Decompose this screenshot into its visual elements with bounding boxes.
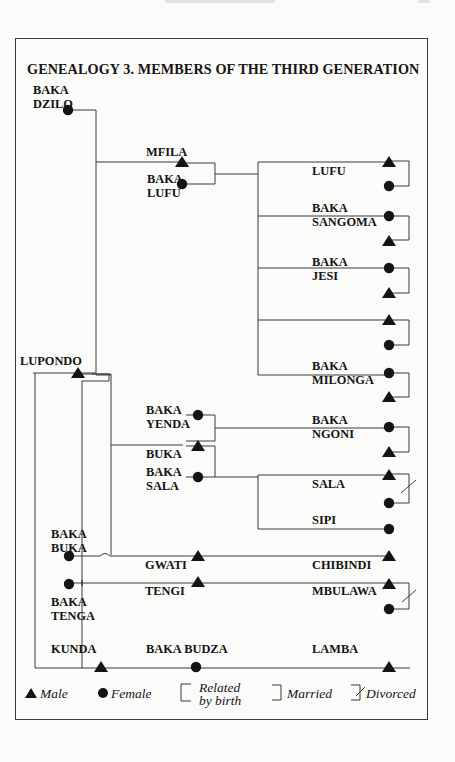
person-lufu: LUFU [312,164,346,178]
person-baka-ngoni: BAKA NGONI [312,413,354,441]
name-line: BAKA [312,201,377,215]
person-mbulawa: MBULAWA [312,584,377,598]
name-line: NGONI [312,427,354,441]
name-line: SALA [146,479,182,493]
person-tengi: TENGI [145,584,185,598]
person-kunda: KUNDA [51,642,96,656]
person-baka-budza: BAKA BUDZA [146,642,228,656]
name-line: BUKA [51,541,87,555]
person-baka-lufu: BAKA LUFU [147,172,183,200]
person-baka-jesi: BAKA JESI [312,255,348,283]
person-buka: BUKA [146,447,182,461]
name-line: BAKA [51,527,87,541]
name-line: BAKA [146,403,190,417]
person-chibindi: CHIBINDI [312,558,371,572]
female-circle-icon [97,687,109,699]
person-baka-buka: BAKA BUKA [51,527,87,555]
person-baka-sala: BAKA SALA [146,465,182,493]
person-lupondo: LUPONDO [20,354,82,368]
name-line: YENDA [146,417,190,431]
name-line: BAKA [312,255,348,269]
person-lamba: LAMBA [312,642,358,656]
legend-line: by birth [199,694,241,707]
name-line: MILONGA [312,373,374,387]
name-line: JESI [312,269,348,283]
name-line: TENGA [51,609,95,623]
name-line: SANGOMA [312,215,377,229]
legend-female: Female [111,687,151,700]
legend-married: Married [287,687,332,700]
person-sala: SALA [312,477,345,491]
person-baka-dzilo: BAKA DZILO [33,83,73,111]
person-mfila: MFILA [146,145,187,159]
male-triangle-icon [24,687,38,699]
name-line: DZILO [33,97,73,111]
name-line: BAKA [312,413,354,427]
legend-related-by-birth: Related by birth [199,681,241,707]
person-gwati: GWATI [145,558,187,572]
person-baka-yenda: BAKA YENDA [146,403,190,431]
legend-male: Male [40,687,68,700]
name-line: BAKA [146,465,182,479]
legend: Male Female Related by birth Married Div… [0,683,455,723]
name-line: BAKA [51,595,95,609]
legend-divorced: Divorced [366,687,416,700]
related-by-birth-bracket-icon [179,683,193,703]
name-line: BAKA [147,172,183,186]
married-bracket-icon [271,684,283,702]
name-line: BAKA [33,83,73,97]
person-baka-sangoma: BAKA SANGOMA [312,201,377,229]
name-line: BAKA [312,359,374,373]
person-baka-tenga: BAKA TENGA [51,595,95,623]
name-line: LUFU [147,186,183,200]
person-baka-milonga: BAKA MILONGA [312,359,374,387]
person-sipi: SIPI [312,513,336,527]
